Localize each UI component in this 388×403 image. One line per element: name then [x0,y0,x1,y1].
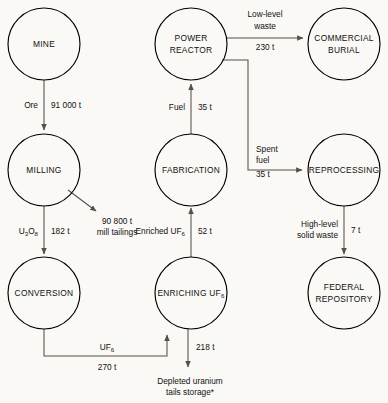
fuel-cycle-diagram: Ore 91 000 t 90 800 t mill tailings U3O8… [0,0,388,403]
edge-label-ore: Ore [24,100,38,110]
node-power-reactor[interactable]: POWER REACTOR [155,8,227,80]
edge-amount-uf6: 270 t [98,362,117,372]
edge-label-enriched-uf6: Enriched UF6 [135,226,185,237]
node-power-reactor-label-line1: POWER [175,33,208,43]
node-power-reactor-label-line2: REACTOR [170,45,213,55]
node-commercial-burial-label-line2: BURIAL [328,45,360,55]
edge-label-spent-fuel-line2: fuel [256,155,270,165]
node-enriching-uf6-label: ENRICHING UF6 [157,288,225,299]
edge-amount-low-level-waste: 230 t [256,42,275,52]
node-conversion-label: CONVERSION [15,288,74,298]
node-conversion[interactable]: CONVERSION [8,257,80,329]
edge-amount-spent-fuel: 35 t [256,169,271,179]
edge-amount-enriched-uf6: 52 t [198,226,213,236]
edge-label-uf6: UF6 [100,342,115,353]
edge-amount-fuel: 35 t [198,102,213,112]
node-commercial-burial[interactable]: COMMERCIAL BURIAL [308,8,380,80]
edge-amount-depleted-tails: 218 t [196,342,215,352]
tails-storage-label-line2: tails storage* [166,387,215,397]
node-reprocessing-label: REPROCESSING [309,165,379,175]
edge-amount-u3o8: 182 t [51,226,70,236]
node-milling-label: MILLING [26,165,61,175]
node-commercial-burial-circle [308,8,380,80]
node-fabrication[interactable]: FABRICATION [155,134,227,206]
node-fabrication-label: FABRICATION [162,165,220,175]
edge-label-low-level-waste-line1: Low-level [247,9,282,19]
edge-label-mill-tailings: mill tailings [97,227,138,237]
edge-label-high-level-waste-line1: High-level [301,219,338,229]
node-mine-label: MINE [33,39,55,49]
node-power-reactor-circle [155,8,227,80]
node-enriching-uf6[interactable]: ENRICHING UF6 [155,257,227,329]
node-milling[interactable]: MILLING [8,134,80,206]
node-mine[interactable]: MINE [8,8,80,80]
edge-label-fuel: Fuel [169,102,185,112]
edge-amount-high-level-waste: 7 t [351,225,361,235]
node-federal-repository-label-line2: REPOSITORY [315,294,372,304]
edge-label-high-level-waste-line2: solid waste [297,230,338,240]
edge-amount-mill-tailings: 90 800 t [102,216,133,226]
tails-storage-label-line1: Depleted uranium [157,376,223,386]
node-federal-repository[interactable]: FEDERAL REPOSITORY [308,257,380,329]
edge-label-spent-fuel-line1: Spent [256,144,278,154]
node-reprocessing[interactable]: REPROCESSING [308,134,380,206]
edge-label-u3o8: U3O8 [19,226,39,237]
edge-amount-ore: 91 000 t [51,100,82,110]
flow-diagram-svg: Ore 91 000 t 90 800 t mill tailings U3O8… [0,0,388,403]
node-commercial-burial-label-line1: COMMERCIAL [314,33,373,43]
node-federal-repository-circle [308,257,380,329]
edge-label-low-level-waste-line2: waste [253,21,276,31]
node-federal-repository-label-line1: FEDERAL [324,282,364,292]
